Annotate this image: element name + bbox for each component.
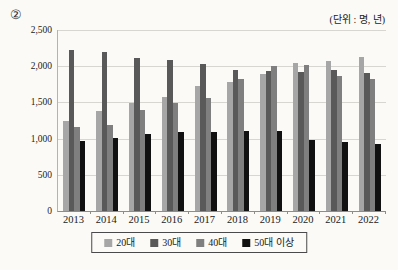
legend-label: 20대	[116, 238, 135, 248]
legend-item: 40대	[196, 238, 227, 248]
bar	[178, 132, 184, 211]
bar	[145, 134, 151, 211]
bar	[342, 142, 348, 212]
y-tick-label: 2,500	[0, 25, 52, 35]
bar-group	[189, 30, 222, 211]
x-axis-label: 2021	[325, 214, 346, 225]
bar	[211, 132, 217, 211]
x-axis-label: 2014	[96, 214, 117, 225]
bar-group	[91, 30, 124, 211]
y-tick-label: 1,500	[0, 97, 52, 107]
legend-swatch-icon	[196, 239, 204, 247]
y-axis: 05001,0001,5002,0002,500	[0, 0, 52, 270]
legend-item: 50대 이상	[242, 238, 294, 248]
legend-item: 30대	[150, 238, 181, 248]
legend: 20대30대40대50대 이상	[91, 232, 307, 253]
bar-group	[124, 30, 157, 211]
x-tick-mark	[385, 211, 386, 214]
bar-group	[353, 30, 386, 211]
bar-group	[320, 30, 353, 211]
chart-panel: ② (단위 : 명, 년) 05001,0001,5002,0002,500 2…	[0, 0, 398, 270]
bar	[244, 131, 250, 211]
legend-swatch-icon	[242, 239, 250, 247]
plot-area	[57, 30, 386, 212]
bar	[375, 144, 381, 211]
legend-label: 40대	[208, 238, 227, 248]
x-axis-label: 2020	[293, 214, 314, 225]
y-tick-label: 0	[0, 206, 52, 216]
x-axis-label: 2015	[129, 214, 150, 225]
x-axis-label: 2016	[161, 214, 182, 225]
legend-swatch-icon	[104, 239, 112, 247]
x-axis-label: 2013	[63, 214, 84, 225]
bar-group	[222, 30, 255, 211]
x-axis: 2013201420152016201720182019202020212022	[57, 214, 385, 228]
legend-swatch-icon	[150, 239, 158, 247]
y-tick-label: 500	[0, 170, 52, 180]
x-axis-label: 2017	[194, 214, 215, 225]
legend-label: 50대 이상	[254, 238, 294, 248]
bar-group	[255, 30, 288, 211]
bar	[113, 138, 119, 211]
bar	[309, 140, 315, 211]
bar	[277, 131, 283, 211]
bar-group	[156, 30, 189, 211]
bar-group	[288, 30, 321, 211]
legend-label: 30대	[162, 238, 181, 248]
legend-item: 20대	[104, 238, 135, 248]
unit-label: (단위 : 명, 년)	[330, 11, 385, 26]
bar	[80, 141, 86, 211]
y-tick-label: 1,000	[0, 134, 52, 144]
y-tick-label: 2,000	[0, 61, 52, 71]
x-axis-label: 2022	[358, 214, 379, 225]
bar-group	[58, 30, 91, 211]
x-axis-label: 2018	[227, 214, 248, 225]
x-axis-label: 2019	[260, 214, 281, 225]
